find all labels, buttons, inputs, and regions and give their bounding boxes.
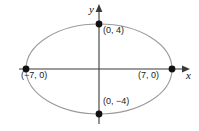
ellipse-graph-figure: (0, 4) (0, −4) (−7, 0) (7, 0) x y [0,0,199,131]
point-marker-top [96,21,103,28]
point-label-right: (7, 0) [138,70,159,80]
point-label-bottom: (0, −4) [103,96,129,106]
point-label-top: (0, 4) [103,25,124,35]
graph-canvas [0,0,199,131]
y-axis-label: y [89,4,94,15]
x-axis-label: x [186,70,191,81]
y-axis-arrow-icon [96,4,103,12]
point-marker-bottom [96,111,103,118]
point-label-left: (−7, 0) [21,70,47,80]
point-marker-right [169,66,176,73]
